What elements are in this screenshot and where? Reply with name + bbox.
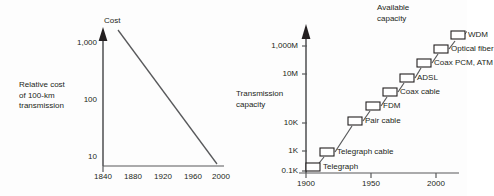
step-marker-telegraph-cable <box>320 148 334 156</box>
step-marker-coax-cable <box>383 88 397 96</box>
cost-x-tick-label-1960: 1960 <box>178 172 208 182</box>
capacity-x-tick-label-1900: 1900 <box>291 179 321 189</box>
step-label-pair-cable: Pair cable <box>365 116 401 126</box>
step-marker-telegraph <box>306 163 320 171</box>
capacity-y-axis-arrow <box>302 24 311 39</box>
step-label-wdm: WDM <box>468 30 488 40</box>
cost-y-axis-title-line-2: of 100-km <box>19 91 77 102</box>
capacity-y-tick-label-10K: 10K <box>252 118 298 128</box>
cost-y-axis-title-line-1: Relative cost <box>19 80 77 91</box>
step-label-fdm: FDM <box>383 101 400 111</box>
capacity-y-tick-label-1000M: 1,000M <box>252 41 298 51</box>
cost-x-tick-label-1840: 1840 <box>88 172 118 182</box>
cost-trend-line <box>118 30 217 164</box>
step-label-telegraph-cable: Telegraph cable <box>337 147 393 157</box>
available-capacity-annotation: Available capacity <box>377 3 437 24</box>
capacity-y-tick-label-10M: 10M <box>252 69 298 79</box>
capacity-y-axis-title-line-1: Transmission <box>236 89 298 100</box>
chart-relative-cost: 1,000 100 10 1840 1880 1920 1960 2000 Co… <box>0 0 234 196</box>
step-marker-fdm <box>366 102 380 110</box>
capacity-x-tick-label-1950: 1950 <box>356 179 386 189</box>
cost-x-tick-label-1920: 1920 <box>148 172 178 182</box>
chart-transmission-capacity: 1,000M 10M 10K 1K 0.1K 1900 1950 2000 Tr… <box>234 0 467 196</box>
cost-x-tick-label-1880: 1880 <box>118 172 148 182</box>
available-capacity-line-1: Available <box>377 3 437 14</box>
cost-y-tick-label-10: 10 <box>62 152 97 162</box>
step-marker-optical-fiber <box>434 45 448 53</box>
capacity-y-tick-label-0_1K: 0.1K <box>252 166 298 176</box>
step-marker-adsl <box>400 74 414 82</box>
step-marker-pair-cable <box>348 117 362 125</box>
step-label-optical-fiber: Optical fiber <box>451 44 494 54</box>
step-label-adsl: ADSL <box>417 73 438 83</box>
cost-y-axis-arrow <box>99 27 108 41</box>
available-capacity-line-2: capacity <box>377 14 437 25</box>
step-marker-coax-pcm-atm <box>417 59 431 67</box>
capacity-y-tick-label-1K: 1K <box>252 146 298 156</box>
capacity-y-axis-title-line-2: capacity <box>236 100 298 111</box>
step-marker-wdm <box>451 31 465 39</box>
step-label-coax-cable: Coax cable <box>400 87 440 97</box>
cost-x-tick-label-2000: 2000 <box>206 172 236 182</box>
cost-series-annotation: Cost <box>104 16 120 26</box>
capacity-x-tick-label-2000: 2000 <box>421 179 451 189</box>
cost-y-axis-title-line-3: transmission <box>19 101 77 112</box>
capacity-y-axis-title: Transmission capacity <box>236 89 298 110</box>
cost-y-axis-title: Relative cost of 100-km transmission <box>19 80 77 112</box>
step-label-telegraph: Telegraph <box>323 162 358 172</box>
step-label-coax-pcm-atm: Coax PCM, ATM <box>434 58 493 68</box>
cost-y-tick-label-1000: 1,000 <box>62 38 97 48</box>
